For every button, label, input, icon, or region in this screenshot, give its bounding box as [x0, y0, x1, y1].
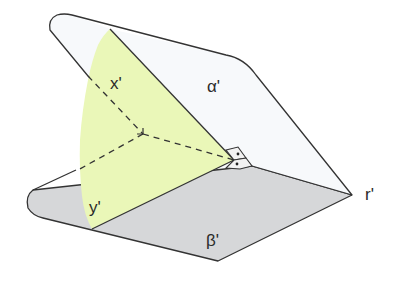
- right-angle-dot-beta: [236, 163, 239, 166]
- label-beta: β': [206, 231, 219, 250]
- label-r: r': [365, 185, 374, 204]
- label-x: x': [110, 74, 122, 93]
- label-alpha: α': [207, 77, 220, 96]
- label-y: y': [89, 198, 101, 217]
- diagram: x' α' y' β' r': [0, 0, 394, 281]
- right-angle-dot-alpha: [237, 153, 240, 156]
